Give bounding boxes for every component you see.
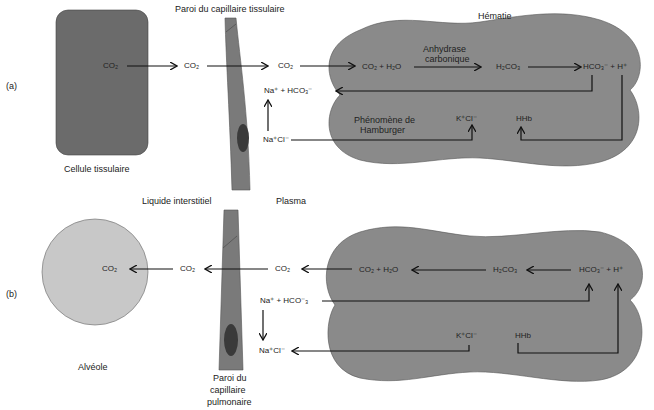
- species-hco3-h-b: HCO₃⁻ + H⁺: [579, 266, 623, 274]
- species-nacl-b: Na⁺Cl⁻: [259, 347, 285, 355]
- capillary-nucleus-b: [224, 324, 238, 356]
- species-h2co3-b: H₂CO₃: [493, 266, 517, 274]
- hamburger-label-2: Hamburger: [360, 125, 405, 136]
- tissue-cell: [56, 10, 148, 155]
- species-nacl-a: Na⁺Cl⁻: [263, 136, 289, 144]
- diagram-canvas: [0, 0, 654, 410]
- species-co2-alveolus: CO₂: [102, 265, 117, 273]
- species-na-hco3-b: Na⁺ + HCO⁻₃: [260, 297, 308, 305]
- panel-a-marker: (a): [6, 81, 17, 92]
- alveolus: [42, 219, 148, 325]
- species-hco3-h-a: HCO₃⁻ + H⁺: [583, 63, 627, 71]
- capillary-wall-title: Paroi du capillaire tissulaire: [175, 4, 285, 15]
- species-kcl-a: K⁺Cl⁻: [456, 115, 477, 123]
- species-co2-interstitial-b: CO₂: [180, 265, 195, 273]
- species-co2-h2o-a: CO₂ + H₂O: [362, 63, 401, 71]
- plasma-label: Plasma: [276, 196, 306, 207]
- alveolus-label: Alvéole: [78, 362, 108, 373]
- red-blood-cell-b: [326, 227, 642, 382]
- capillary-nucleus-a: [237, 124, 249, 152]
- panel-b-marker: (b): [6, 289, 17, 300]
- pulmonary-wall-label-2: capillaire: [210, 385, 246, 396]
- species-co2-interstitial-a: CO₂: [184, 62, 199, 70]
- tissue-cell-label: Cellule tissulaire: [64, 164, 130, 175]
- species-hhb-a: HHb: [516, 115, 532, 123]
- species-co2-h2o-b: CO₂ + H₂O: [359, 266, 398, 274]
- rbc-label: Hématie: [478, 11, 512, 22]
- species-co2-plasma-a: CO₂: [278, 62, 293, 70]
- species-na-hco3-a: Na⁺ + HCO₃⁻: [264, 87, 312, 95]
- pulmonary-wall-label-1: Paroi du: [213, 373, 247, 384]
- species-hhb-b: HHb: [515, 332, 531, 340]
- species-kcl-b: K⁺Cl⁻: [456, 332, 477, 340]
- species-co2-cell: CO₂: [103, 62, 118, 70]
- species-h2co3-a: H₂CO₃: [496, 63, 520, 71]
- enzyme-label-2: carbonique: [425, 54, 470, 65]
- interstitial-label: Liquide interstitiel: [142, 196, 212, 207]
- red-blood-cell-a: [329, 14, 640, 166]
- pulmonary-wall-label-3: pulmonaire: [207, 397, 252, 408]
- species-co2-plasma-b: CO₂: [275, 265, 290, 273]
- capillary-wall-a: [225, 18, 250, 190]
